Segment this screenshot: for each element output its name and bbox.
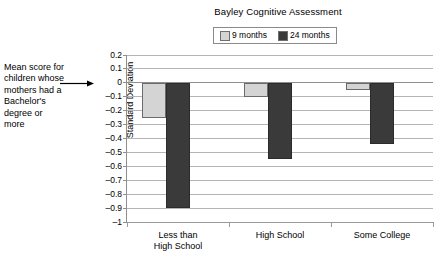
plot-area <box>127 55 433 222</box>
bar-9-months[interactable] <box>346 83 370 90</box>
y-axis-tick-mark <box>123 68 127 69</box>
y-axis-tick-label: –0.6 <box>96 162 122 171</box>
y-axis-tick-label: –0.9 <box>96 204 122 213</box>
x-axis-separator <box>331 222 332 227</box>
y-axis-tick-mark <box>123 166 127 167</box>
y-axis-tick-mark <box>123 110 127 111</box>
y-axis-tick-mark <box>123 194 127 195</box>
bar-9-months[interactable] <box>244 83 268 97</box>
annotation-arrow-icon <box>60 79 94 88</box>
x-axis-category-line: Less than <box>127 230 229 241</box>
y-axis-tick-label: –1 <box>96 218 122 227</box>
y-axis-tick-mark <box>123 208 127 209</box>
y-axis-tick-mark <box>123 96 127 97</box>
chart-figure: Bayley Cognitive Assessment 9 months 24 … <box>0 0 446 270</box>
bar-24-months[interactable] <box>166 83 190 208</box>
annotation-line: more <box>4 119 92 130</box>
x-axis-separator <box>127 222 128 227</box>
y-axis-tick-label: 0.2 <box>96 51 122 60</box>
bar-24-months[interactable] <box>268 83 292 160</box>
x-axis-category-line: High School <box>229 230 331 241</box>
bar-9-months[interactable] <box>142 83 166 118</box>
y-axis-tick-mark <box>123 55 127 56</box>
y-axis-tick-label: –0.4 <box>96 134 122 143</box>
x-axis-category-label: Less thanHigh School <box>127 230 229 252</box>
y-axis-tick-mark <box>123 82 127 83</box>
legend-label-24-months: 24 months <box>290 31 330 40</box>
gridline <box>127 55 433 56</box>
x-axis-category-label: High School <box>229 230 331 241</box>
x-axis-category-line: Some College <box>331 230 433 241</box>
gridline <box>127 68 433 69</box>
x-axis-category-label: Some College <box>331 230 433 241</box>
y-axis-tick-mark <box>123 152 127 153</box>
chart-title: Bayley Cognitive Assessment <box>143 6 413 17</box>
legend-entry-24-months[interactable]: 24 months <box>278 31 330 41</box>
y-axis-tick-label: 0.1 <box>96 64 122 73</box>
gridline <box>127 222 433 223</box>
bar-24-months[interactable] <box>370 83 394 144</box>
legend-entry-9-months[interactable]: 9 months <box>220 31 267 41</box>
y-axis-tick-mark <box>123 180 127 181</box>
annotation-line: Bachelor's <box>4 96 92 107</box>
annotation-text: Mean score forchildren whosemothers had … <box>4 62 92 130</box>
y-axis-tick-label: –0.2 <box>96 106 122 115</box>
chart-legend: 9 months 24 months <box>213 27 337 44</box>
annotation-line: Mean score for <box>4 62 92 73</box>
legend-swatch-9-months <box>220 31 230 41</box>
legend-label-9-months: 9 months <box>232 31 267 40</box>
y-axis-tick-label: –0.8 <box>96 190 122 199</box>
x-axis-category-line: High School <box>127 241 229 252</box>
y-axis-tick-labels: 0.20.10–0.1–0.2–0.3–0.4–0.5–0.6–0.7–0.8–… <box>96 55 122 222</box>
y-axis-tick-label: –0.5 <box>96 148 122 157</box>
y-axis-tick-label: –0.1 <box>96 92 122 101</box>
y-axis-tick-label: 0 <box>96 78 122 87</box>
x-axis-separator <box>433 222 434 227</box>
y-axis-tick-label: –0.3 <box>96 120 122 129</box>
y-axis-tick-mark <box>123 138 127 139</box>
annotation-line: degree or <box>4 108 92 119</box>
x-axis-separator <box>229 222 230 227</box>
legend-swatch-24-months <box>278 31 288 41</box>
y-axis-tick-label: –0.7 <box>96 176 122 185</box>
y-axis-tick-mark <box>123 124 127 125</box>
